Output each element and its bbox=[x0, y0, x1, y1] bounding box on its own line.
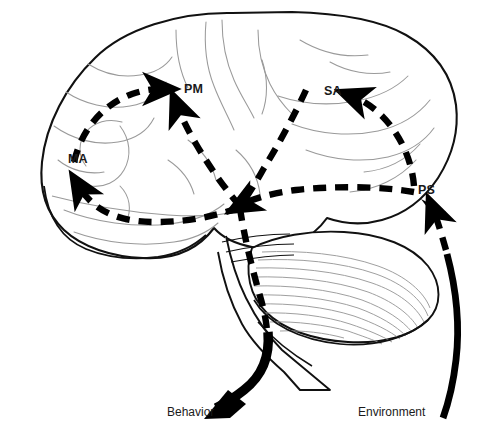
brain-diagram-svg bbox=[0, 0, 478, 441]
label-ps: PS bbox=[418, 183, 435, 197]
label-ma: MA bbox=[68, 152, 88, 166]
label-sa: SA bbox=[324, 84, 342, 98]
cerebellum-outline bbox=[248, 232, 438, 343]
environment-arrowhead[interactable] bbox=[421, 199, 446, 227]
label-behavior: Behavior bbox=[167, 405, 214, 419]
environment-arrow-tail[interactable] bbox=[443, 254, 458, 418]
label-pm: PM bbox=[184, 82, 203, 96]
brain-connectivity-figure: PM SA MA PS Behavior Environment bbox=[0, 0, 478, 441]
label-environment: Environment bbox=[358, 405, 425, 419]
